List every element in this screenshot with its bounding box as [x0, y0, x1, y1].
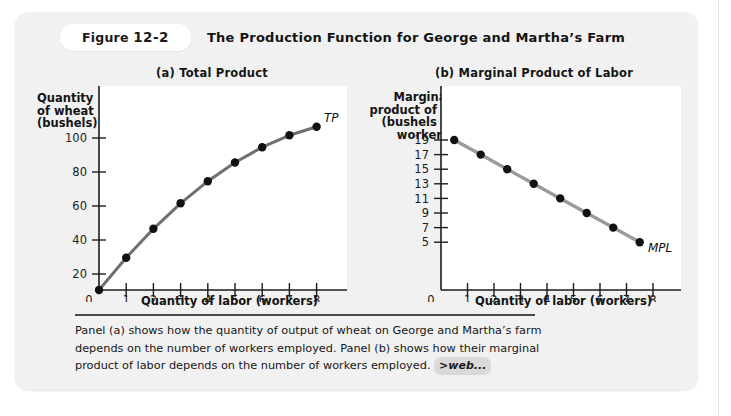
panel-a-xtick-0: 0: [85, 293, 92, 302]
figure-header: Figure 12-2 The Production Function for …: [15, 24, 698, 54]
figure-caption: Panel (a) shows how the quantity of outp…: [75, 322, 545, 375]
panel-b-ytick-19: 19: [414, 133, 429, 147]
figure-card: Figure 12-2 The Production Function for …: [15, 12, 698, 390]
panel-a-ytick-40: 40: [72, 233, 87, 247]
panel-b-ytick-7: 7: [422, 221, 429, 235]
panel-b-ytick-17: 17: [414, 148, 429, 162]
panel-a-plot: 20 40 60 80 100 0 1 2 3 4 5 6 7: [21, 80, 361, 302]
figure-title: The Production Function for George and M…: [207, 24, 625, 51]
caption-divider: [75, 314, 535, 316]
panel-a-x-axis-title: Quantity of labor (workers): [141, 294, 318, 308]
panel-a-ytick-80: 80: [72, 165, 87, 179]
panel-b-ytick-11: 11: [414, 192, 429, 206]
page-edge-rule: [718, 0, 719, 416]
figure-tab-label: Figure: [82, 30, 129, 45]
panel-b-ytick-13: 13: [414, 177, 429, 191]
panel-b-ytick-5: 5: [422, 235, 429, 249]
panel-a-ytick-100: 100: [65, 131, 87, 145]
panel-b-xtick-1: 1: [464, 293, 471, 302]
panel-a-curve-label: TP: [324, 111, 339, 125]
panel-a-plot-background: [99, 86, 347, 290]
panel-b-plot-background: [441, 86, 681, 290]
figure-number-tab: Figure 12-2: [60, 24, 191, 51]
panel-b-ytick-9: 9: [422, 206, 429, 220]
panel-a-ytick-20: 20: [72, 267, 87, 281]
panel-b-ytick-15: 15: [414, 162, 429, 176]
web-link-badge[interactable]: >web...: [434, 357, 491, 375]
panel-b-x-axis-title: Quantity of labor (workers): [475, 294, 652, 308]
panel-b-title: (b) Marginal Product of Labor: [363, 66, 695, 80]
panel-b-curve-label: MPL: [648, 241, 672, 255]
panel-b-xtick-0: 0: [427, 293, 434, 302]
panel-a-title: (a) Total Product: [21, 66, 361, 80]
panel-a-xtick-1: 1: [123, 293, 130, 302]
panel-total-product: (a) Total Product Quantity of wheat (bus…: [21, 66, 361, 311]
panel-a-ytick-60: 60: [72, 199, 87, 213]
figure-tab-number: 12-2: [133, 29, 169, 45]
figure-number-tab-text: Figure 12-2: [60, 24, 191, 51]
panel-b-plot: 19 17 15 13 11 9 7 5 0 1 2 3 4: [363, 80, 695, 302]
panel-marginal-product: (b) Marginal Product of Labor Marginal p…: [363, 66, 695, 311]
